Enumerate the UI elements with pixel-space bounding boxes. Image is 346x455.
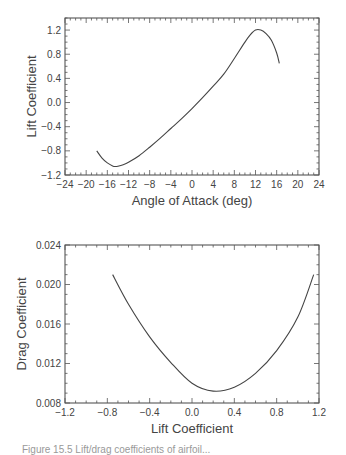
drag-polar-plot: −1.2−0.8−0.40.00.40.81.20.0080.0120.0160… <box>14 240 326 437</box>
y-tick-label: 0.0 <box>47 97 61 108</box>
x-tick-label: 0 <box>189 179 195 190</box>
x-tick-label: −20 <box>78 179 95 190</box>
x-tick-label: 4 <box>210 179 216 190</box>
data-series-line <box>97 30 280 167</box>
y-tick-label: 0.016 <box>36 319 61 330</box>
x-tick-label: −8 <box>144 179 156 190</box>
x-axis-title: Lift Coefficient <box>151 421 234 436</box>
y-tick-label: −0.8 <box>41 145 61 156</box>
y-tick-label: 0.024 <box>36 240 61 251</box>
lift-curve-plot: −24−20−16−12−8−404812162024−1.2−0.8−0.40… <box>24 18 325 208</box>
x-tick-label: −0.8 <box>97 407 117 418</box>
x-tick-label: 16 <box>271 179 283 190</box>
x-tick-label: 8 <box>232 179 238 190</box>
x-tick-label: −4 <box>165 179 177 190</box>
x-tick-label: 24 <box>313 179 325 190</box>
plot-frame <box>65 18 319 175</box>
x-tick-label: 0.0 <box>185 407 199 418</box>
x-tick-label: −24 <box>57 179 74 190</box>
y-tick-label: 0.020 <box>36 279 61 290</box>
y-axis-title: Drag Coefficient <box>14 277 29 370</box>
x-tick-label: 1.2 <box>312 407 326 418</box>
x-tick-label: 0.8 <box>270 407 284 418</box>
data-series-line <box>113 275 314 392</box>
figure-caption: Figure 15.5 Lift/drag coefficients of ai… <box>22 444 210 455</box>
y-tick-label: 0.012 <box>36 358 61 369</box>
x-tick-label: −16 <box>99 179 116 190</box>
y-tick-label: 0.008 <box>36 398 61 409</box>
x-axis-title: Angle of Attack (deg) <box>132 193 253 208</box>
y-tick-label: −1.2 <box>41 170 61 181</box>
x-tick-label: −12 <box>120 179 137 190</box>
plot-frame <box>65 245 319 403</box>
y-tick-label: −0.4 <box>41 121 61 132</box>
y-axis-title: Lift Coefficient <box>24 55 39 138</box>
x-tick-label: 12 <box>250 179 262 190</box>
y-tick-label: 1.2 <box>47 25 61 36</box>
y-tick-label: 0.8 <box>47 49 61 60</box>
y-tick-label: 0.4 <box>47 73 61 84</box>
x-tick-label: 20 <box>292 179 304 190</box>
x-tick-label: −1.2 <box>55 407 75 418</box>
x-tick-label: 0.4 <box>227 407 241 418</box>
x-tick-label: −0.4 <box>140 407 160 418</box>
